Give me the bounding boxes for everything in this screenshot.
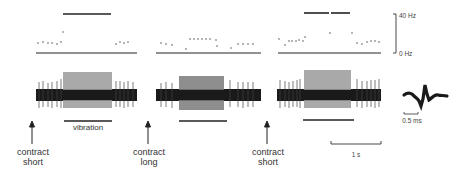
arrow-icon bbox=[265, 121, 270, 144]
spike-waveform bbox=[404, 85, 447, 106]
panel-3-label-line2: short bbox=[247, 157, 289, 167]
panel-2-label-line1: contract bbox=[128, 147, 170, 157]
panel-1-label-line2: short bbox=[12, 157, 54, 167]
panel-1-label-line1: contract bbox=[12, 147, 54, 157]
spike-scale-bar bbox=[404, 112, 418, 114]
arrow-icon bbox=[146, 121, 151, 144]
panel-3-label: contract short bbox=[247, 147, 289, 167]
freq-plot-2 bbox=[156, 38, 261, 53]
trace-3 bbox=[277, 70, 381, 108]
panel-2-label-line2: long bbox=[128, 157, 170, 167]
arrow-icon bbox=[30, 121, 35, 144]
trace-2 bbox=[156, 76, 261, 110]
time-scale-bar bbox=[331, 141, 381, 144]
time-scale-label: 1 s bbox=[346, 150, 366, 160]
figure-canvas bbox=[0, 0, 461, 174]
vibration-label: vibration bbox=[64, 123, 112, 133]
freq-scale-bar bbox=[393, 14, 396, 53]
panel-1-label: contract short bbox=[12, 147, 54, 167]
freq-plot-3 bbox=[278, 13, 381, 53]
panel-2-label: contract long bbox=[128, 147, 170, 167]
panel-3-label-line1: contract bbox=[247, 147, 289, 157]
freq-bottom-label: 0 Hz bbox=[399, 49, 412, 59]
spike-scale-label: 0.5 ms bbox=[400, 116, 424, 126]
freq-plot-1 bbox=[36, 14, 137, 53]
trace-1 bbox=[36, 72, 137, 108]
freq-top-label: 40 Hz bbox=[399, 11, 416, 21]
